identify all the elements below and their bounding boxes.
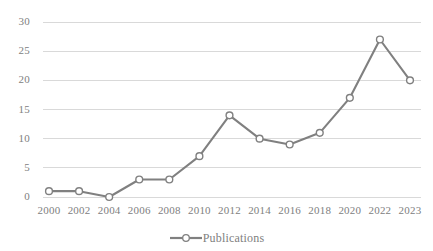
x-tick-label: 2016 <box>273 205 307 216</box>
x-tick-label: 2008 <box>152 205 186 216</box>
data-point-marker[interactable] <box>256 135 263 142</box>
data-point-marker[interactable] <box>166 176 173 183</box>
legend-item-publications[interactable]: Publications <box>169 232 265 244</box>
chart-legend: Publications <box>0 230 433 246</box>
data-point-marker[interactable] <box>226 112 233 119</box>
x-tick-label: 2022 <box>363 205 397 216</box>
x-tick-label: 2020 <box>333 205 367 216</box>
x-tick-label: 2010 <box>182 205 216 216</box>
x-tick-label: 2023 <box>393 205 427 216</box>
x-tick-label: 2000 <box>32 205 66 216</box>
data-point-marker[interactable] <box>316 129 323 136</box>
data-point-marker[interactable] <box>346 94 353 101</box>
gridlines <box>43 22 421 197</box>
data-point-marker[interactable] <box>106 194 113 201</box>
data-point-marker[interactable] <box>46 188 53 195</box>
x-tick-label: 2018 <box>303 205 337 216</box>
x-tick-label: 2014 <box>243 205 277 216</box>
data-point-marker[interactable] <box>196 153 203 160</box>
y-tick-label: 10 <box>4 133 30 144</box>
x-tick-label: 2002 <box>62 205 96 216</box>
line-chart: 051015202530 200020022004200620082010201… <box>0 0 433 251</box>
x-tick-label: 2006 <box>122 205 156 216</box>
x-tick-label: 2012 <box>213 205 247 216</box>
x-tick-label: 2004 <box>92 205 126 216</box>
series-markers-publications <box>46 36 414 200</box>
data-point-marker[interactable] <box>286 141 293 148</box>
legend-line-marker-icon <box>169 232 203 244</box>
data-point-marker[interactable] <box>377 36 384 43</box>
y-tick-label: 0 <box>4 191 30 202</box>
legend-label-publications: Publications <box>203 232 265 244</box>
y-tick-label: 5 <box>4 162 30 173</box>
y-tick-label: 25 <box>4 45 30 56</box>
y-tick-label: 20 <box>4 74 30 85</box>
data-point-marker[interactable] <box>407 77 414 84</box>
y-tick-label: 15 <box>4 104 30 115</box>
data-point-marker[interactable] <box>136 176 143 183</box>
y-tick-label: 30 <box>4 16 30 27</box>
data-point-marker[interactable] <box>76 188 83 195</box>
